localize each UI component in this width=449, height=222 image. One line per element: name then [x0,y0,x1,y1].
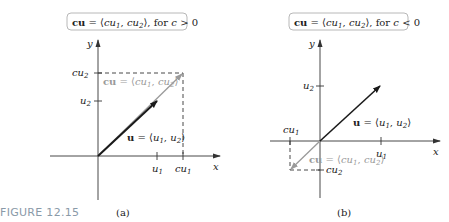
vector-cu-label: cu = ⟨cu1, cu2⟩ [103,76,178,89]
tick-label-cu1: cu1 [283,124,300,137]
panel-b: cu = ⟨cu1, cu2⟩, for c < 0 y x u2 cu2 u1… [270,13,440,218]
figure-caption: FIGURE 12.15 [0,206,79,219]
vector-u [98,101,157,156]
vector-u-label: u = ⟨u1, u2⟩ [353,117,411,130]
panel-a-title: cu = ⟨cu1, cu2⟩, for c > 0 [67,13,198,30]
panel-b-title: cu = ⟨cu1, cu2⟩, for c < 0 [289,13,420,30]
tick-label-u1: u1 [152,163,163,176]
y-axis-label: y [86,38,93,49]
panel-a: cu = ⟨cu1, cu2⟩, for c > 0 y x cu2 u2 u1… [50,13,220,218]
title-lhs: cu [72,17,85,28]
y-axis-label: y [308,38,315,49]
x-axis-label: x [433,146,439,157]
x-axis-label: x [213,161,219,172]
panel-b-label: (b) [337,207,351,218]
tick-label-cu2: cu2 [72,67,89,80]
figure-canvas: cu = ⟨cu1, cu2⟩, for c > 0 y x cu2 u2 u1… [0,0,449,222]
vector-u [320,86,380,141]
panel-a-label: (a) [116,207,130,218]
tick-label-cu1: cu1 [175,163,192,176]
tick-label-cu2: cu2 [326,164,343,177]
tick-label-u2: u2 [303,80,314,93]
vector-u-label: u = ⟨u1, u2⟩ [127,132,185,145]
tick-label-u2: u2 [80,95,91,108]
title-lhs: cu [294,17,307,28]
